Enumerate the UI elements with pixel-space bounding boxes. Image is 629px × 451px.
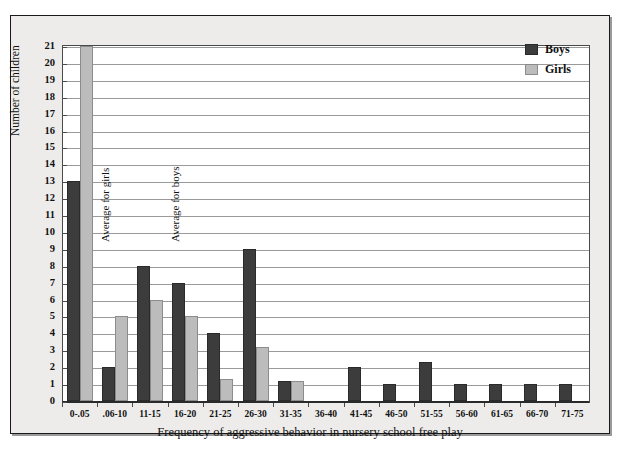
- x-axis-line: [62, 401, 589, 403]
- bar-boys[interactable]: [383, 384, 396, 401]
- legend-item-girls[interactable]: Girls: [525, 62, 571, 77]
- gridline: [62, 148, 589, 149]
- chart-legend: BoysGirls: [525, 42, 571, 82]
- bar-group: [168, 283, 203, 401]
- bar-boys[interactable]: [243, 249, 256, 401]
- x-tick-mark: [97, 403, 98, 407]
- bar-group: [414, 362, 449, 401]
- y-tick-label: 11: [15, 210, 55, 221]
- bar-girls[interactable]: [115, 316, 128, 401]
- bar-girls[interactable]: [291, 381, 304, 401]
- y-tick-label: 3: [15, 345, 55, 356]
- annotation-average-for-girls: Average for girls: [99, 168, 111, 242]
- bar-group: [203, 333, 238, 401]
- y-tick-label: 8: [15, 261, 55, 272]
- gridline: [62, 47, 589, 48]
- gridline: [62, 64, 589, 65]
- y-tick-label: 21: [15, 41, 55, 52]
- gridline: [62, 182, 589, 183]
- y-tick-label: 4: [15, 328, 55, 339]
- y-tick-label: 0: [15, 396, 55, 407]
- bar-girls[interactable]: [220, 379, 233, 401]
- x-tick-mark: [168, 403, 169, 407]
- bar-group: [62, 46, 97, 401]
- bar-girls[interactable]: [256, 347, 269, 401]
- plot-area: 0123456789101112131415161718192021 Avera…: [62, 45, 590, 403]
- bar-group: [132, 266, 167, 401]
- x-tick-mark: [449, 403, 450, 407]
- x-tick-mark: [132, 403, 133, 407]
- x-tick-mark: [238, 403, 239, 407]
- bar-boys[interactable]: [489, 384, 502, 401]
- y-tick-label: 12: [15, 193, 55, 204]
- y-tick-label: 16: [15, 126, 55, 137]
- bar-group: [484, 384, 519, 401]
- legend-label: Boys: [545, 42, 570, 57]
- bar-group: [273, 381, 308, 401]
- legend-swatch-girls: [525, 64, 538, 75]
- bar-boys[interactable]: [102, 367, 115, 401]
- y-tick-label: 6: [15, 295, 55, 306]
- x-tick-mark: [203, 403, 204, 407]
- y-tick-label: 10: [15, 227, 55, 238]
- gridline: [62, 199, 589, 200]
- bar-boys[interactable]: [278, 381, 291, 401]
- bar-girls[interactable]: [150, 300, 163, 401]
- bar-girls[interactable]: [80, 46, 93, 401]
- y-tick-label: 17: [15, 109, 55, 120]
- bar-boys[interactable]: [419, 362, 432, 401]
- y-tick-label: 13: [15, 176, 55, 187]
- y-tick-label: 20: [15, 58, 55, 69]
- legend-label: Girls: [545, 62, 571, 77]
- y-tick-label: 19: [15, 75, 55, 86]
- y-tick-label: 15: [15, 142, 55, 153]
- gridline: [62, 81, 589, 82]
- x-tick-mark: [484, 403, 485, 407]
- gridline: [62, 115, 589, 116]
- x-tick-mark: [62, 403, 63, 407]
- gridline: [62, 165, 589, 166]
- bar-group: [555, 384, 590, 401]
- y-tick-label: 5: [15, 311, 55, 322]
- annotation-average-for-boys: Average for boys: [169, 166, 181, 242]
- y-tick-label: 2: [15, 362, 55, 373]
- bar-boys[interactable]: [454, 384, 467, 401]
- x-tick-mark: [414, 403, 415, 407]
- bar-group: [449, 384, 484, 401]
- gridline: [62, 98, 589, 99]
- bar-boys[interactable]: [348, 367, 361, 401]
- bar-girls[interactable]: [185, 316, 198, 401]
- bar-group: [344, 367, 379, 401]
- bar-boys[interactable]: [524, 384, 537, 401]
- gridline: [62, 216, 589, 217]
- y-tick-label: 1: [15, 379, 55, 390]
- y-tick-label: 7: [15, 278, 55, 289]
- bar-boys[interactable]: [67, 181, 80, 401]
- gridline: [62, 233, 589, 234]
- bar-boys[interactable]: [137, 266, 150, 401]
- bar-group: [379, 384, 414, 401]
- gridline: [62, 132, 589, 133]
- x-tick-mark: [379, 403, 380, 407]
- y-tick-label: 18: [15, 92, 55, 103]
- x-tick-label: 71-75: [542, 409, 602, 419]
- gridline: [62, 250, 589, 251]
- y-tick-label: 14: [15, 159, 55, 170]
- x-tick-mark: [555, 403, 556, 407]
- bar-group: [97, 316, 132, 401]
- legend-item-boys[interactable]: Boys: [525, 42, 571, 57]
- x-tick-mark: [308, 403, 309, 407]
- x-axis-label: Frequency of aggressive behavior in nurs…: [11, 425, 609, 440]
- chart-frame: Number of children 012345678910111213141…: [10, 15, 610, 434]
- x-tick-mark: [344, 403, 345, 407]
- bar-group: [238, 249, 273, 401]
- bar-boys[interactable]: [207, 333, 220, 401]
- x-tick-mark: [520, 403, 521, 407]
- x-tick-mark: [273, 403, 274, 407]
- bar-group: [520, 384, 555, 401]
- y-tick-label: 9: [15, 244, 55, 255]
- legend-swatch-boys: [525, 44, 538, 55]
- bar-boys[interactable]: [559, 384, 572, 401]
- bar-boys[interactable]: [172, 283, 185, 401]
